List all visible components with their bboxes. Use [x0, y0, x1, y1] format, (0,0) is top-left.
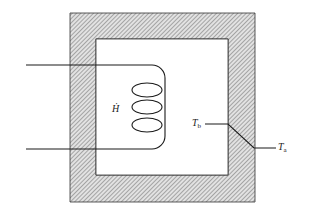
enclosure-diagram — [0, 0, 310, 217]
heat-rate-label: Ḣ — [112, 103, 119, 114]
inner-temp-label: Tb — [192, 117, 201, 130]
outer-temp-subscript: a — [284, 146, 287, 154]
inner-temp-subscript: b — [198, 122, 202, 130]
outer-temp-label: Ta — [278, 141, 287, 154]
